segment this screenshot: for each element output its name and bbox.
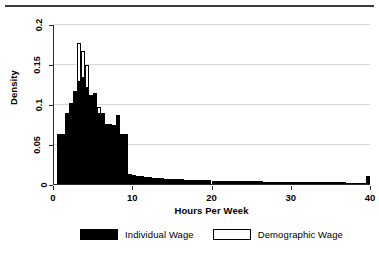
y-tick-mark (49, 145, 53, 146)
chart-legend: Individual Wage Demographic Wage (53, 226, 370, 242)
plot-area (53, 25, 370, 185)
x-axis-ticks: 010203040 (53, 186, 370, 204)
x-tick-label: 10 (127, 192, 138, 203)
y-tick-mark (49, 65, 53, 66)
legend-swatch-hollow-icon (213, 229, 251, 240)
y-axis-title: Density (8, 58, 19, 118)
y-axis-ticks: 00.050.10.150.2 (26, 25, 46, 185)
y-tick-label: 0.05 (28, 140, 46, 150)
legend-label-individual-wage: Individual Wage (125, 229, 194, 240)
x-axis-title: Hours Per Week (53, 205, 370, 216)
y-tick-label: 0 (41, 180, 46, 190)
x-tick-label: 30 (285, 192, 296, 203)
y-tick-mark (49, 105, 53, 106)
y-tick-mark (49, 25, 53, 26)
x-tick-label: 20 (206, 192, 217, 203)
legend-item-individual-wage: Individual Wage (80, 229, 194, 240)
x-tick-label: 0 (50, 192, 55, 203)
x-tick-mark (291, 186, 292, 190)
y-tick-label: 0.1 (33, 100, 46, 110)
histogram-figure: Density 00.050.10.150.2 010203040 Hours … (0, 0, 379, 257)
x-tick-label: 40 (365, 192, 376, 203)
x-tick-mark (53, 186, 54, 190)
x-tick-mark (132, 186, 133, 190)
y-tick-label: 0.2 (33, 20, 46, 30)
legend-swatch-filled-icon (80, 229, 118, 240)
top-divider-rule (5, 5, 374, 7)
legend-label-demographic-wage: Demographic Wage (258, 229, 343, 240)
x-tick-mark (212, 186, 213, 190)
plot-frame (53, 25, 370, 185)
x-tick-mark (370, 186, 371, 190)
y-tick-mark (49, 185, 53, 186)
legend-item-demographic-wage: Demographic Wage (213, 229, 343, 240)
y-tick-label: 0.15 (28, 60, 46, 70)
